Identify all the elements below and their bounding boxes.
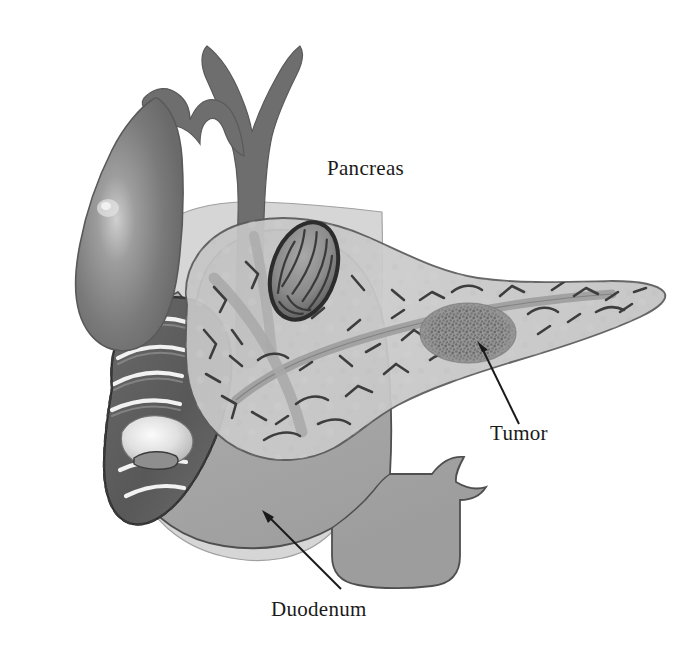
label-duodenum: Duodenum (271, 597, 367, 622)
gallbladder (75, 98, 183, 351)
label-tumor: Tumor (490, 421, 548, 446)
anatomy-illustration (0, 0, 692, 659)
label-pancreas: Pancreas (327, 156, 404, 181)
tumor (419, 302, 517, 364)
illustration-figure: Pancreas Tumor Duodenum (0, 0, 692, 659)
